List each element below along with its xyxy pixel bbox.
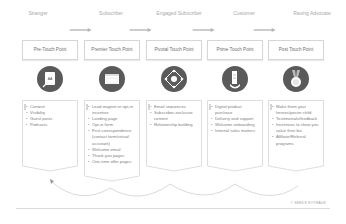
list-item: Podcasts — [30, 122, 75, 128]
touch-point-prime: Prime Touch Point — [207, 40, 263, 60]
cycle-return-arrows — [40, 178, 310, 204]
list-prime-touch: Digital product purchase Delivery and su… — [207, 100, 263, 170]
list-post-touch: Make them your heroes/poster child Testi… — [268, 100, 324, 170]
arrow-right-icon — [187, 28, 221, 32]
list-item: Make them your heroes/poster child — [276, 104, 321, 116]
footer-divider — [16, 208, 330, 209]
list-item: Subscriber-exclusive content — [154, 110, 199, 122]
stage-subscriber: Subscriber — [81, 10, 141, 16]
list-item: Affiliate/Referral programs — [276, 134, 321, 146]
stage-stranger: Stranger — [8, 10, 68, 16]
list-item: Lead magnet or opt-in incentive — [92, 104, 137, 116]
content-document-icon: AA — [37, 66, 63, 92]
arrow-right-icon — [64, 28, 98, 32]
stage-customer: Customer — [214, 10, 274, 16]
network-hub-icon — [161, 66, 187, 92]
list-item: First correspondence (contact form/virtu… — [92, 128, 137, 146]
touch-point-pivotal: Pivotal Touch Point — [146, 40, 202, 60]
credit-text: © SEEDS ROTHAUS — [291, 201, 326, 205]
list-item: Relationship building — [154, 122, 199, 128]
list-item: Incentives to show you value their biz — [276, 122, 321, 134]
landing-page-window-icon — [99, 66, 125, 92]
list-item: One-time offer pages — [92, 159, 137, 165]
stage-engaged-subscriber: Engaged Subscriber — [144, 10, 214, 16]
arrow-right-icon — [124, 28, 158, 32]
list-item: Internal sales matters — [215, 128, 260, 134]
medal-award-icon — [283, 66, 309, 92]
touch-point-post: Post Touch Point — [268, 40, 324, 60]
touch-point-premier: Premier Touch Point — [84, 40, 140, 60]
list-pre-touch: Content Visibility Guest posts Podcasts — [22, 100, 78, 170]
list-premier-touch: Lead magnet or opt-in incentive Landing … — [84, 100, 140, 180]
list-pivotal-touch: Email sequences Subscriber-exclusive con… — [146, 100, 202, 170]
touch-point-pre: Pre-Touch Point — [22, 40, 78, 60]
list-item: Digital product purchase — [215, 104, 260, 116]
arrow-right-icon — [248, 28, 282, 32]
svg-text:AA: AA — [48, 77, 53, 81]
stage-raving-advocate: Raving Advocate — [282, 10, 342, 16]
purchase-bag-icon — [222, 66, 248, 92]
